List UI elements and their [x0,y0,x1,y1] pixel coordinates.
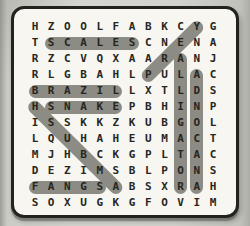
grid-cell-r5c9[interactable]: I [173,99,189,115]
grid-cell-r7c11[interactable]: T [205,131,221,147]
grid-cell-r8c3[interactable]: B [76,147,92,163]
grid-cell-r3c1[interactable]: L [43,67,59,83]
grid-cell-r5c6[interactable]: P [124,99,140,115]
grid-cell-r5c8[interactable]: H [156,99,172,115]
grid-cell-r6c11[interactable]: L [205,115,221,131]
grid-cell-r9c2[interactable]: Z [59,163,75,179]
grid-cell-r10c1[interactable]: A [43,179,59,195]
grid-cell-r6c5[interactable]: Z [108,115,124,131]
grid-cell-r7c2[interactable]: U [59,131,75,147]
grid-cell-r9c10[interactable]: N [189,163,205,179]
grid-cell-r0c8[interactable]: K [156,19,172,35]
grid-cell-r5c3[interactable]: A [76,99,92,115]
grid-cell-r11c7[interactable]: F [140,195,156,211]
grid-cell-r1c0[interactable]: T [27,35,43,51]
grid-cell-r2c1[interactable]: Z [43,51,59,67]
grid-cell-r10c11[interactable]: H [205,179,221,195]
grid-cell-r8c4[interactable]: C [92,147,108,163]
grid-cell-r7c6[interactable]: E [124,131,140,147]
grid-cell-r11c5[interactable]: K [108,195,124,211]
grid-cell-r1c11[interactable]: A [205,35,221,51]
grid-cell-r2c3[interactable]: V [76,51,92,67]
grid-cell-r3c3[interactable]: B [76,67,92,83]
grid-cell-r3c8[interactable]: U [156,67,172,83]
grid-cell-r7c3[interactable]: H [76,131,92,147]
grid-cell-r2c5[interactable]: X [108,51,124,67]
grid-cell-r3c7[interactable]: P [140,67,156,83]
grid-cell-r3c4[interactable]: A [92,67,108,83]
grid-cell-r9c7[interactable]: L [140,163,156,179]
grid-cell-r6c8[interactable]: B [156,115,172,131]
grid-cell-r8c0[interactable]: M [27,147,43,163]
grid-cell-r7c5[interactable]: H [108,131,124,147]
grid-cell-r2c8[interactable]: R [156,51,172,67]
grid-cell-r1c4[interactable]: L [92,35,108,51]
grid-cell-r11c3[interactable]: U [76,195,92,211]
grid-cell-r2c4[interactable]: Q [92,51,108,67]
grid-cell-r4c0[interactable]: B [27,83,43,99]
grid-cell-r1c6[interactable]: S [124,35,140,51]
grid-cell-r10c3[interactable]: G [76,179,92,195]
grid-cell-r7c4[interactable]: A [92,131,108,147]
grid-cell-r8c11[interactable]: C [205,147,221,163]
grid-cell-r0c7[interactable]: B [140,19,156,35]
grid-cell-r1c9[interactable]: E [173,35,189,51]
grid-cell-r5c7[interactable]: B [140,99,156,115]
grid-cell-r0c0[interactable]: H [27,19,43,35]
grid-cell-r5c11[interactable]: P [205,99,221,115]
grid-cell-r11c6[interactable]: G [124,195,140,211]
grid-cell-r7c10[interactable]: C [189,131,205,147]
grid-cell-r11c8[interactable]: O [156,195,172,211]
grid-cell-r9c1[interactable]: E [43,163,59,179]
grid-cell-r4c10[interactable]: D [189,83,205,99]
grid-cell-r0c10[interactable]: Y [189,19,205,35]
grid-cell-r8c9[interactable]: T [173,147,189,163]
grid-cell-r4c2[interactable]: A [59,83,75,99]
grid-cell-r0c2[interactable]: O [59,19,75,35]
grid-cell-r9c6[interactable]: B [124,163,140,179]
grid-cell-r8c6[interactable]: G [124,147,140,163]
grid-cell-r5c0[interactable]: H [27,99,43,115]
grid-cell-r4c4[interactable]: I [92,83,108,99]
grid-cell-r11c10[interactable]: I [189,195,205,211]
grid-cell-r9c8[interactable]: P [156,163,172,179]
grid-cell-r0c9[interactable]: C [173,19,189,35]
grid-cell-r9c3[interactable]: I [76,163,92,179]
grid-cell-r5c10[interactable]: N [189,99,205,115]
grid-cell-r6c2[interactable]: S [59,115,75,131]
grid-cell-r5c4[interactable]: K [92,99,108,115]
grid-cell-r8c8[interactable]: L [156,147,172,163]
grid-cell-r7c9[interactable]: A [173,131,189,147]
grid-cell-r2c6[interactable]: A [124,51,140,67]
grid-cell-r9c0[interactable]: D [27,163,43,179]
grid-cell-r10c4[interactable]: S [92,179,108,195]
grid-cell-r6c6[interactable]: K [124,115,140,131]
grid-cell-r9c5[interactable]: S [108,163,124,179]
grid-cell-r8c7[interactable]: P [140,147,156,163]
grid-cell-r1c10[interactable]: N [189,35,205,51]
grid-cell-r2c7[interactable]: A [140,51,156,67]
grid-cell-r11c0[interactable]: S [27,195,43,211]
grid-cell-r7c8[interactable]: M [156,131,172,147]
grid-cell-r10c7[interactable]: S [140,179,156,195]
grid-cell-r5c2[interactable]: N [59,99,75,115]
grid-cell-r7c1[interactable]: Q [43,131,59,147]
grid-cell-r6c10[interactable]: O [189,115,205,131]
grid-cell-r6c3[interactable]: K [76,115,92,131]
grid-cell-r0c11[interactable]: G [205,19,221,35]
grid-cell-r11c1[interactable]: O [43,195,59,211]
grid-cell-r10c10[interactable]: A [189,179,205,195]
grid-cell-r9c9[interactable]: O [173,163,189,179]
grid-cell-r6c1[interactable]: S [43,115,59,131]
grid-cell-r8c10[interactable]: A [189,147,205,163]
grid-cell-r0c3[interactable]: O [76,19,92,35]
grid-cell-r6c4[interactable]: K [92,115,108,131]
grid-cell-r6c0[interactable]: I [27,115,43,131]
grid-cell-r3c6[interactable]: L [124,67,140,83]
grid-cell-r7c7[interactable]: U [140,131,156,147]
grid-cell-r10c8[interactable]: X [156,179,172,195]
grid-cell-r11c11[interactable]: M [205,195,221,211]
grid-cell-r7c0[interactable]: L [27,131,43,147]
grid-cell-r0c6[interactable]: A [124,19,140,35]
grid-cell-r3c0[interactable]: R [27,67,43,83]
